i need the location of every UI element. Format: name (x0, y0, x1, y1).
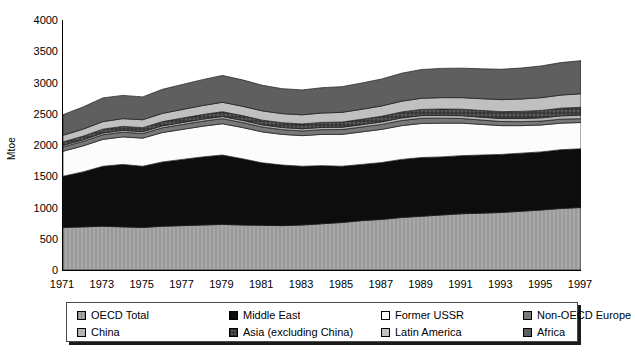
legend-item[interactable]: China (77, 326, 229, 338)
legend-label: Africa (537, 326, 565, 338)
legend-item[interactable]: Africa (523, 326, 635, 338)
legend-item[interactable]: OECD Total (77, 309, 229, 321)
x-tick-label: 1979 (209, 279, 233, 290)
legend-label: Non-OECD Europe (537, 309, 631, 321)
x-tick-label: 1993 (488, 279, 512, 290)
x-tick-label: 1983 (289, 279, 313, 290)
x-tick-label: 1985 (329, 279, 353, 290)
legend-label: China (91, 326, 120, 338)
x-tick-label: 1971 (50, 279, 74, 290)
legend-label: Middle East (243, 309, 300, 321)
x-tick-label: 1973 (90, 279, 114, 290)
legend-item[interactable]: Latin America (381, 326, 523, 338)
dark-gray-swatch (523, 328, 532, 337)
x-tick-label: 1981 (249, 279, 273, 290)
legend-label: OECD Total (91, 309, 149, 321)
legend-item[interactable]: Asia (excluding China) (229, 326, 381, 338)
legend-label: Former USSR (395, 309, 464, 321)
black-swatch (229, 311, 238, 320)
x-tick-label: 1975 (129, 279, 153, 290)
x-tick-label: 1989 (408, 279, 432, 290)
x-tick-label: 1997 (568, 279, 592, 290)
legend-label: Latin America (395, 326, 462, 338)
light-hatch-swatch (77, 311, 86, 320)
legend-item[interactable]: Non-OECD Europe (523, 309, 635, 321)
x-tick-label: 1995 (528, 279, 552, 290)
pale-gray-swatch (381, 328, 390, 337)
x-tick-label: 1991 (448, 279, 472, 290)
x-tick-label: 1977 (169, 279, 193, 290)
light-gray-swatch (77, 328, 86, 337)
legend-item[interactable]: Former USSR (381, 309, 523, 321)
legend-item[interactable]: Middle East (229, 309, 381, 321)
dark-hatch-swatch (229, 328, 238, 337)
legend-grid: OECD TotalMiddle EastFormer USSRNon-OECD… (67, 303, 577, 344)
white-swatch (381, 311, 390, 320)
x-tick-label: 1987 (369, 279, 393, 290)
chart-legend: OECD TotalMiddle EastFormer USSRNon-OECD… (66, 302, 578, 342)
legend-label: Asia (excluding China) (243, 326, 353, 338)
mid-gray-swatch (523, 311, 532, 320)
